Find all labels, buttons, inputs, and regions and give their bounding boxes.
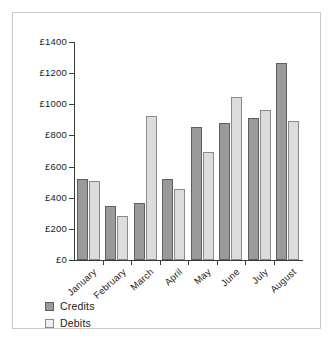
x-axis-label-april: April — [162, 266, 184, 288]
x-tick-mark — [217, 260, 218, 265]
bar-group-march — [134, 42, 160, 260]
bar-credits-august[interactable] — [276, 63, 287, 260]
bar-credits-july[interactable] — [248, 118, 259, 260]
x-tick-mark — [131, 260, 132, 265]
y-tick-mark — [69, 42, 74, 43]
y-tick-mark — [69, 167, 74, 168]
y-tick-mark — [69, 135, 74, 136]
bar-group-february — [105, 42, 131, 260]
x-tick-mark — [103, 260, 104, 265]
bar-group-june — [219, 42, 245, 260]
y-axis-line — [74, 42, 75, 261]
bar-credits-april[interactable] — [162, 179, 173, 260]
legend-swatch-debits-icon — [45, 319, 54, 328]
legend-item-credits[interactable]: Credits — [45, 299, 95, 314]
bar-debits-march[interactable] — [146, 116, 157, 260]
y-tick-mark — [69, 198, 74, 199]
legend-label: Credits — [60, 300, 95, 313]
bar-credits-february[interactable] — [105, 206, 116, 261]
bar-debits-june[interactable] — [231, 97, 242, 260]
y-tick-label: £1000 — [40, 97, 67, 110]
bar-group-may — [191, 42, 217, 260]
y-tick-label: £800 — [45, 128, 67, 141]
bar-credits-january[interactable] — [77, 179, 88, 260]
y-tick-label: £0 — [56, 253, 67, 266]
bar-group-august — [276, 42, 302, 260]
x-tick-mark — [245, 260, 246, 265]
y-tick-label: £200 — [45, 222, 67, 235]
y-tick-label: £600 — [45, 160, 67, 173]
bar-group-january — [77, 42, 103, 260]
bar-debits-august[interactable] — [288, 121, 299, 260]
chart-figure: £0£200£400£600£800£1000£1200£1400 Januar… — [12, 12, 321, 329]
bar-debits-february[interactable] — [117, 216, 128, 260]
y-tick-mark — [69, 260, 74, 261]
bar-group-july — [248, 42, 274, 260]
plot-area: £0£200£400£600£800£1000£1200£1400 Januar… — [74, 42, 302, 260]
bar-debits-april[interactable] — [174, 189, 185, 260]
x-axis-label-may: May — [192, 266, 213, 287]
x-axis-label-august: August — [268, 266, 298, 295]
chart-legend: CreditsDebits — [45, 299, 95, 333]
legend-swatch-credits-icon — [45, 302, 54, 311]
legend-item-debits[interactable]: Debits — [45, 316, 95, 331]
bar-debits-january[interactable] — [89, 181, 100, 260]
y-tick-label: £1200 — [40, 66, 67, 79]
x-axis-label-june: June — [218, 266, 241, 288]
x-tick-mark — [274, 260, 275, 265]
bar-credits-june[interactable] — [219, 123, 230, 260]
y-tick-mark — [69, 229, 74, 230]
bar-debits-july[interactable] — [260, 110, 271, 260]
x-tick-mark — [188, 260, 189, 265]
bar-credits-may[interactable] — [191, 127, 202, 260]
bar-credits-march[interactable] — [134, 203, 145, 260]
x-tick-mark — [160, 260, 161, 265]
bar-group-april — [162, 42, 188, 260]
y-tick-mark — [69, 73, 74, 74]
x-axis-label-july: July — [250, 266, 271, 286]
bar-debits-may[interactable] — [203, 152, 214, 260]
y-tick-label: £1400 — [40, 35, 67, 48]
x-axis-label-march: March — [128, 266, 156, 293]
legend-label: Debits — [60, 317, 91, 330]
y-tick-label: £400 — [45, 191, 67, 204]
y-tick-mark — [69, 104, 74, 105]
